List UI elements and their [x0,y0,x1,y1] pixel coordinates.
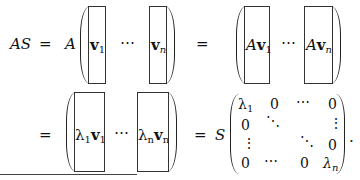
vector-Av1: Av1 [246,36,272,55]
ellipsis-3: ⋯ [114,123,129,141]
lhs-AS: AS [10,35,31,53]
matrix-cell: ⋯ [264,153,278,169]
ellipsis-2: ⋯ [281,33,296,51]
matrix-cell: 0 [270,96,279,112]
vector-vn: vn [151,36,166,55]
vector-lambda1-v1: λ1v1 [75,126,106,145]
right-paren [165,6,175,84]
right-paren-3 [167,92,177,172]
matrix-cell: ⋮ [242,135,256,151]
matrix-cell: ⋱ [300,133,314,149]
equals-sign: = [39,35,52,53]
equals-sign-3: = [39,126,52,144]
vector-Avn: Avn [306,36,332,55]
ellipsis: ⋯ [120,33,135,51]
matrix-cell: λ1 [238,96,253,114]
vector-v1: v1 [90,36,105,55]
equals-sign-4: = [194,126,207,144]
matrix-cell: ⋯ [296,94,310,110]
period: . [349,128,354,146]
right-paren-2 [331,6,341,84]
matrix-cell: 0 [300,155,309,171]
horizontal-rule [0,174,137,175]
matrix-cell: 0 [241,117,250,133]
coefficient-S: S [215,126,225,144]
matrix-cell: ⋱ [266,113,280,129]
equals-sign-2: = [196,35,209,53]
matrix-cell: 0 [241,155,250,171]
matrix-right-paren [336,94,345,174]
vector-lambdan-vn: λnvn [138,126,169,145]
coefficient-A: A [65,35,76,53]
